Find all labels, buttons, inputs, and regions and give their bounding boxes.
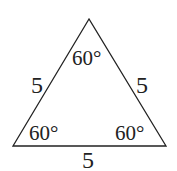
apex-angle-label: 60° [72,46,101,70]
bottom-right-angle-label: 60° [115,121,144,145]
bottom-side-label: 5 [82,147,94,171]
bottom-left-angle-label: 60° [29,121,58,145]
right-side-label: 5 [136,72,148,98]
triangle-diagram: 60° 60° 60° 5 5 5 [0,0,177,171]
left-side-label: 5 [31,72,43,98]
